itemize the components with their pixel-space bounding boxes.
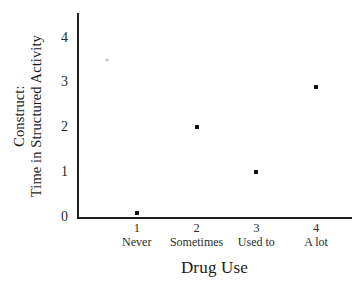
data-point [105,59,108,62]
plot-area [77,13,352,219]
y-axis-tick-labels: 01234 [0,0,77,232]
x-axis-line [77,217,352,219]
data-point [314,85,318,89]
scatter-chart-figure: Construct: Time in Structured Activity 0… [0,0,362,294]
y-tick-label: 0 [48,209,68,225]
x-axis-title: Drug Use [77,258,352,278]
x-tick-category: A lot [271,235,361,250]
y-tick-label: 1 [48,164,68,180]
x-tick-group: 4A lot [271,221,361,250]
data-point [254,170,258,174]
y-tick-label: 3 [48,74,68,90]
x-tick-number: 4 [271,221,361,235]
data-point [195,125,199,129]
x-axis-tick-labels: 1Never2Sometimes3Used to4A lot [77,221,352,255]
y-tick-label: 2 [48,119,68,135]
y-axis-line [77,13,79,219]
data-point [135,211,139,215]
y-tick-label: 4 [48,30,68,46]
